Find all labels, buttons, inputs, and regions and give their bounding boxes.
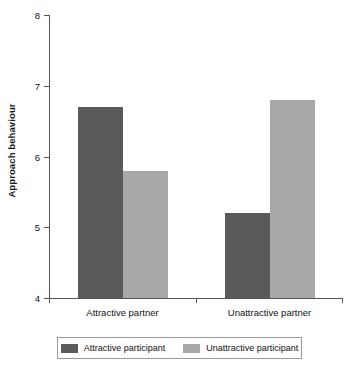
y-axis-tick: 5 — [44, 227, 49, 228]
y-axis-tick-label: 4 — [35, 293, 40, 304]
legend-item-label: Unattractive participant — [206, 343, 298, 353]
y-axis-spine — [49, 15, 50, 298]
y-axis-tick: 7 — [44, 86, 49, 87]
chart-legend: Attractive participant Unattractive part… — [57, 337, 302, 359]
bar — [270, 100, 315, 298]
plot-area: 45678 Attractive partnerUnattractive par… — [49, 15, 343, 298]
x-axis-tick — [196, 298, 197, 303]
bar — [78, 107, 123, 298]
y-axis-title-label: Approach behaviour — [6, 103, 17, 197]
x-axis-tick — [49, 298, 50, 303]
legend-swatch-icon — [183, 344, 200, 353]
bar — [225, 213, 270, 298]
legend-swatch-icon — [61, 344, 78, 353]
legend-item-label: Attractive participant — [84, 343, 166, 353]
y-axis-tick-label: 7 — [35, 80, 40, 91]
y-axis-tick-label: 8 — [35, 10, 40, 21]
legend-item[interactable]: Unattractive participant — [183, 343, 298, 353]
legend-item[interactable]: Attractive participant — [61, 343, 166, 353]
bar — [123, 171, 168, 298]
x-axis-tick — [342, 298, 343, 303]
y-axis-tick: 6 — [44, 157, 49, 158]
y-axis-title: Approach behaviour — [0, 0, 22, 300]
y-axis-tick-label: 6 — [35, 151, 40, 162]
y-axis-tick-label: 5 — [35, 222, 40, 233]
x-axis-group-label: Unattractive partner — [228, 307, 311, 318]
bar-chart: Approach behaviour 45678 Attractive part… — [0, 0, 361, 370]
x-axis-group-label: Attractive partner — [86, 307, 158, 318]
y-axis-tick: 8 — [44, 15, 49, 16]
